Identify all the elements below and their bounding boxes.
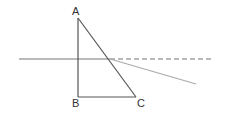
side-ac [78,18,136,97]
label-c: C [137,97,145,109]
refracted-ray [110,59,196,84]
label-b: B [72,97,79,109]
diagram-canvas: A B C [0,0,228,114]
label-a: A [72,5,80,17]
